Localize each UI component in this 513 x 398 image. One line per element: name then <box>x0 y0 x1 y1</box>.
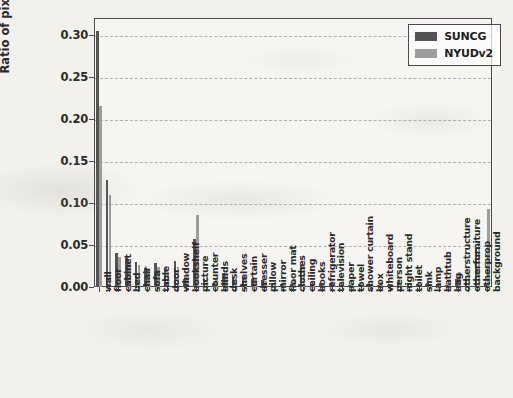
legend-item-suncg: SUNCG <box>415 30 493 43</box>
x-tick-label: background <box>491 232 502 293</box>
legend-swatch-suncg <box>415 32 437 41</box>
y-tick-label: 0.30 <box>46 28 88 42</box>
y-tick-label: 0.25 <box>46 70 88 84</box>
y-tick-label: 0.20 <box>46 112 88 126</box>
chart-legend: SUNCG NYUDv2 <box>408 24 501 66</box>
y-axis-title: Ratio of pixels <box>0 0 12 92</box>
bar-nyudv2 <box>99 106 102 287</box>
y-tick-label: 0.15 <box>46 154 88 168</box>
legend-label-suncg: SUNCG <box>444 30 486 43</box>
y-tick-label: 0.10 <box>46 196 88 210</box>
legend-swatch-nyudv2 <box>415 49 437 58</box>
legend-item-nyudv2: NYUDv2 <box>415 47 493 60</box>
x-axis-labels: wallfloorcabinetbedchairsofatabledoorwin… <box>94 292 492 396</box>
legend-label-nyudv2: NYUDv2 <box>444 47 493 60</box>
bar-chart-figure: 0.000.050.100.150.200.250.30 Ratio of pi… <box>0 0 513 398</box>
y-tick-label: 0.05 <box>46 238 88 252</box>
y-tick-label: 0.00 <box>46 280 88 294</box>
